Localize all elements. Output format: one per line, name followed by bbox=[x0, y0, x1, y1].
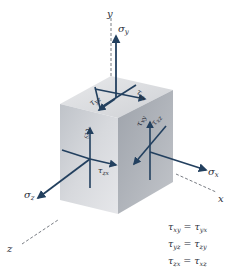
eq-rhs-sub: xz bbox=[200, 260, 207, 268]
eq-lhs-sub: zx bbox=[173, 260, 180, 268]
sigma-z-label: σz bbox=[24, 189, 35, 202]
y-axis-label: y bbox=[106, 8, 113, 19]
z-axis-label: z bbox=[6, 243, 13, 254]
eq-rhs-sub: yx bbox=[200, 226, 207, 234]
eq-op: = bbox=[184, 221, 192, 232]
stress-element-diagram: y x z σy σx σz τyz τyx τzy τzx τxy τxz τ… bbox=[0, 0, 231, 272]
x-axis-label: x bbox=[218, 193, 224, 204]
eq-op: = bbox=[183, 238, 191, 249]
eq-lhs-sub: xy bbox=[173, 226, 180, 234]
sigma-x-label: σx bbox=[208, 166, 219, 179]
equation-row: τyz=τzy bbox=[168, 237, 207, 254]
sigma-y-label: σy bbox=[118, 23, 130, 36]
z-axis-dashed bbox=[22, 220, 58, 244]
eq-lhs-sub: yz bbox=[173, 243, 180, 251]
shear-symmetry-equations: τxy=τyx τyz=τzy τzx=τxz bbox=[168, 220, 207, 271]
equation-row: τxy=τyx bbox=[168, 220, 207, 237]
eq-op: = bbox=[183, 255, 191, 266]
equation-row: τzx=τxz bbox=[168, 254, 207, 271]
eq-rhs-sub: zy bbox=[200, 243, 207, 251]
